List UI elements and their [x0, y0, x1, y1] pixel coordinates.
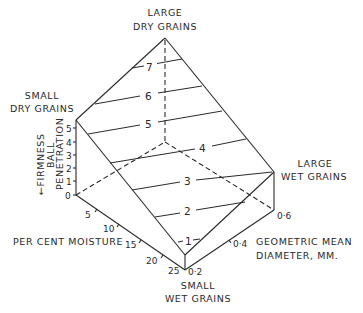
- vertical-axis-label: ←FIRMNESS BALL PENETRATION: [35, 118, 65, 195]
- contour-label-3: 3: [184, 175, 191, 187]
- moisture-tick-5: 5: [85, 210, 91, 220]
- contour-label-5: 5: [145, 118, 152, 130]
- large-dry-label-line2: DRY GRAINS: [133, 21, 197, 32]
- vertical-tick-1: 1: [66, 177, 72, 187]
- diameter-tick-0-2: 0·2: [188, 267, 202, 277]
- contour-label-6: 6: [145, 90, 152, 102]
- large-wet-label-line1: LARGE: [298, 158, 333, 169]
- contour-label-2: 2: [184, 205, 191, 217]
- penetration-label: PENETRATION: [54, 118, 65, 190]
- diameter-axis-ticks: 0·2 0·4 0·6 GEOMETRIC MEAN DIAMETER, MM.: [188, 211, 352, 277]
- contour-label-4: 4: [199, 142, 206, 154]
- edge-small-dry-to-large-dry: [76, 38, 165, 120]
- diameter-axis-label-line1: GEOMETRIC MEAN: [256, 236, 352, 247]
- small-wet-label-line2: WET GRAINS: [165, 293, 231, 304]
- small-dry-label-line1: SMALL: [25, 90, 59, 101]
- vertical-tick-5: 5: [66, 124, 72, 134]
- hidden-edges: [76, 40, 274, 210]
- contour-label-1: 1: [185, 235, 192, 247]
- moisture-tick-15: 15: [125, 240, 136, 250]
- moisture-tick-25: 25: [168, 266, 179, 276]
- surface-diagram: 7 6 5 4 3 2 1 LARGE DRY GRAINS SMALL DRY…: [0, 0, 363, 313]
- contour-labels: 7 6 5 4 3 2 1: [145, 61, 206, 247]
- moisture-axis-ticks: 5 10 15 20 25 PER CENT MOISTURE: [13, 209, 179, 276]
- large-dry-label-line1: LARGE: [148, 7, 183, 18]
- moisture-axis-line: [76, 195, 185, 270]
- moisture-tick-20: 20: [146, 256, 158, 266]
- diameter-tick-0-6: 0·6: [277, 211, 292, 221]
- diameter-axis-label-line2: DIAMETER, MM.: [256, 250, 338, 261]
- vertical-axis-ticks: 0 1 2 3 4 5: [65, 124, 76, 201]
- vertical-tick-3: 3: [66, 151, 72, 161]
- vertical-tick-0: 0: [65, 191, 71, 201]
- contour-lines: [88, 59, 272, 242]
- vertical-tick-2: 2: [66, 164, 72, 174]
- edge-small-dry-to-small-wet: [76, 120, 185, 255]
- small-dry-label-line2: DRY GRAINS: [10, 103, 74, 114]
- vertical-tick-4: 4: [66, 138, 72, 148]
- diameter-tick-0-4: 0·4: [233, 239, 248, 249]
- contour-label-7: 7: [146, 61, 153, 73]
- moisture-axis-label: PER CENT MOISTURE: [13, 236, 123, 247]
- moisture-tick-10: 10: [103, 224, 115, 234]
- small-wet-label-line1: SMALL: [181, 280, 215, 291]
- large-wet-label-line2: WET GRAINS: [281, 171, 347, 182]
